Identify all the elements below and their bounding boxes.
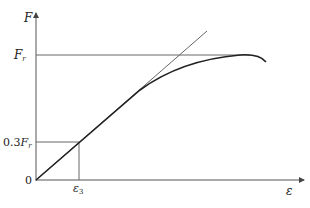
fr-label: Fr bbox=[13, 48, 26, 63]
x-axis-label: ε bbox=[286, 184, 292, 198]
origin-label: 0 bbox=[25, 174, 32, 187]
force-strain-curve bbox=[36, 55, 266, 180]
e3-label: ε3 bbox=[73, 182, 83, 196]
y-axis-label: F bbox=[23, 11, 33, 25]
force-strain-diagram: F ε 0 Fr 0.3Fr ε3 bbox=[0, 0, 310, 208]
03fr-label: 0.3Fr bbox=[3, 136, 32, 150]
